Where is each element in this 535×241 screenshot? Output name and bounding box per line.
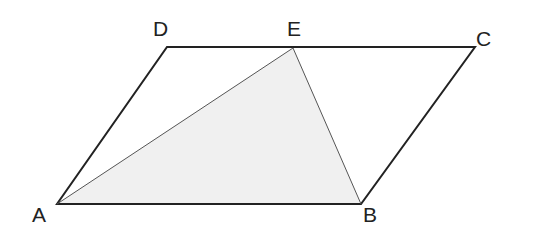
vertex-label-e: E <box>287 17 301 40</box>
vertex-label-d: D <box>153 17 168 40</box>
vertex-label-c: C <box>476 27 491 50</box>
vertex-label-b: B <box>363 203 377 226</box>
vertex-label-a: A <box>32 203 46 226</box>
shaded-triangle-abe <box>57 48 361 204</box>
geometry-diagram: A B C D E <box>0 0 535 241</box>
